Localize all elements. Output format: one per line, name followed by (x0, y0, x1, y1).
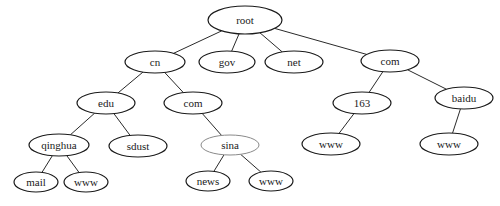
tree-node-gov: gov (199, 51, 255, 73)
tree-node-com_top: com (361, 50, 419, 72)
edge-baidu-www_baidu (453, 109, 461, 133)
node-label: baidu (452, 92, 477, 104)
tree-node-sina: sina (201, 135, 259, 155)
node-label: cn (150, 56, 161, 68)
node-label: www (74, 176, 98, 188)
edge-cn-edu (118, 72, 143, 93)
edge-qinghua-www_qinghua (67, 156, 79, 173)
edge-root-net (260, 33, 282, 52)
node-label: sina (221, 139, 239, 151)
edge-com_cn-sina (202, 113, 221, 135)
edge-qinghua-mail (42, 156, 52, 173)
domain-name-tree-diagram: rootcngovnetcomeducom163baiduqinghuasdus… (0, 0, 500, 206)
tree-node-n163: 163 (333, 92, 391, 114)
node-label: 163 (354, 97, 371, 109)
node-label: sdust (127, 140, 150, 152)
tree-node-sdust: sdust (109, 135, 167, 157)
node-label: www (259, 175, 283, 187)
tree-node-qinghua: qinghua (29, 134, 89, 156)
tree-node-www_163: www (302, 133, 360, 155)
node-label: news (197, 175, 220, 187)
tree-node-edu: edu (77, 92, 135, 114)
node-label: www (319, 138, 343, 150)
tree-node-com_cn: com (164, 92, 222, 114)
edge-cn-com_cn (165, 72, 184, 92)
tree-node-mail: mail (14, 172, 58, 192)
tree-node-news: news (186, 171, 230, 191)
edge-com_top-baidu (408, 70, 447, 89)
node-label: qinghua (41, 139, 77, 151)
node-label: mail (26, 176, 46, 188)
node-label: root (236, 14, 254, 26)
tree-node-www_qinghua: www (64, 172, 108, 192)
edge-edu-sdust (114, 114, 130, 136)
node-label: www (437, 138, 461, 150)
node-label: com (381, 55, 400, 67)
edge-com_top-n163 (369, 72, 383, 93)
edge-root-cn (174, 31, 222, 53)
edge-sina-www_sina (241, 154, 261, 172)
tree-node-root: root (208, 6, 282, 34)
edge-sina-news (214, 155, 224, 172)
tree-node-www_baidu: www (420, 133, 478, 155)
tree-nodes: rootcngovnetcomeducom163baiduqinghuasdus… (14, 6, 493, 192)
tree-node-www_sina: www (249, 171, 293, 191)
tree-node-baidu: baidu (435, 87, 493, 109)
edge-root-gov (232, 34, 239, 51)
node-label: gov (219, 56, 236, 68)
node-label: com (184, 97, 203, 109)
edge-edu-qinghua (70, 113, 94, 135)
tree-node-net: net (265, 51, 323, 73)
node-label: net (287, 56, 300, 68)
tree-node-cn: cn (125, 51, 185, 73)
edge-root-com_top (275, 28, 367, 54)
edge-n163-www_163 (339, 114, 354, 134)
node-label: edu (98, 97, 114, 109)
tree-svg: rootcngovnetcomeducom163baiduqinghuasdus… (0, 0, 500, 206)
